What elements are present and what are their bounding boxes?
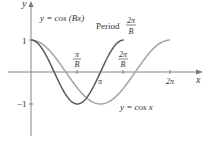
tick-label-2pi-over-b-num: 2π [119, 50, 128, 59]
tick-label-pi-over-b-num: π [75, 50, 80, 59]
period-den: B [129, 27, 134, 36]
y-axis-label: y [21, 0, 27, 9]
period-label: Period [96, 21, 120, 31]
cos-bx-label: y = cos (Bx) [39, 13, 84, 23]
tick-label-pi: π [98, 77, 103, 86]
cosine-comparison-chart: y x 1 −1 π B 2π B π 2π y = cos (Bx) Peri… [0, 0, 207, 141]
y-axis-arrow-icon [29, 1, 34, 7]
y-tick-label-neg1: −1 [17, 99, 27, 109]
tick-label-pi-over-b-den: B [75, 60, 80, 69]
period-num: 2π [127, 16, 136, 25]
cos-x-label: y = cos x [119, 102, 153, 112]
y-tick-label-1: 1 [22, 36, 27, 46]
tick-label-2pi-over-b-den: B [121, 60, 126, 69]
x-axis-label: x [195, 74, 201, 85]
tick-label-2pi: 2π [166, 77, 175, 86]
